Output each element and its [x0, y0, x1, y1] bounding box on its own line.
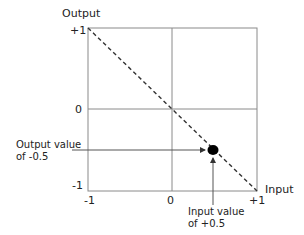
x-tick-right: +1: [249, 195, 265, 207]
output-annotation: Output value of -0.5: [16, 139, 81, 163]
y-axis-title: Output: [62, 8, 100, 20]
x-tick-mid: 0: [167, 195, 174, 207]
highlight-point: [208, 145, 219, 155]
y-tick-top: +1: [70, 25, 86, 37]
input-annotation-line2: of +0.5: [188, 218, 244, 230]
output-annotation-line1: Output value: [16, 139, 81, 151]
x-tick-left: -1: [84, 195, 95, 207]
input-annotation: Input value of +0.5: [188, 206, 244, 230]
input-annotation-line1: Input value: [188, 206, 244, 218]
y-tick-mid: 0: [75, 104, 82, 116]
output-annotation-line2: of -0.5: [16, 151, 81, 163]
x-axis-title: Input: [265, 184, 293, 196]
y-tick-bottom: -1: [72, 180, 83, 192]
